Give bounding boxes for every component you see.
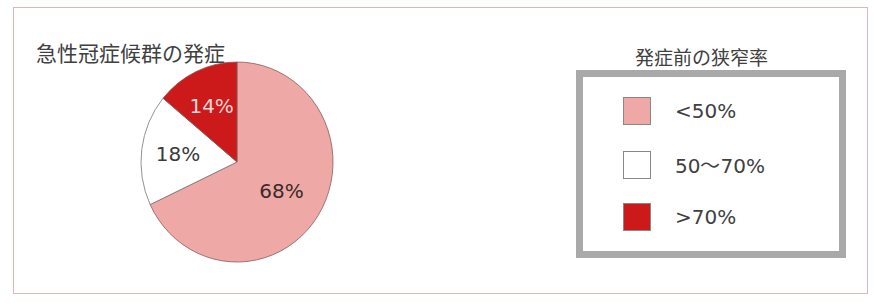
legend-item-lt50: <50% (623, 97, 736, 125)
slice-label: 68% (259, 179, 303, 203)
legend-item-50-70: 50～70% (623, 150, 765, 179)
legend-item-gt70: >70% (623, 203, 736, 231)
legend-label: <50% (675, 99, 736, 123)
legend-title: 発症前の狭窄率 (635, 43, 768, 70)
legend-label: >70% (675, 205, 736, 229)
swatch-50-70-icon (623, 151, 651, 179)
legend-box: <50% 50～70% >70% (576, 70, 846, 258)
slice-label: 14% (189, 94, 233, 118)
swatch-lt50-icon (623, 97, 651, 125)
swatch-gt70-icon (623, 203, 651, 231)
slice-label: 18% (156, 142, 200, 166)
legend-label: 50～70% (675, 150, 765, 179)
